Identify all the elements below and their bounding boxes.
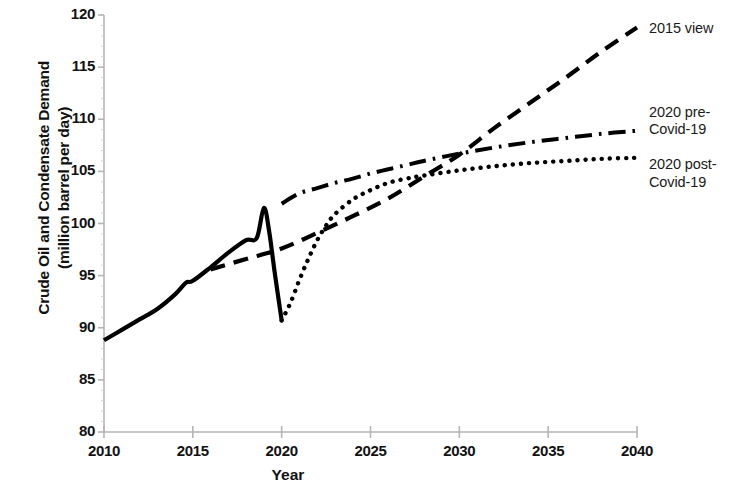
y-tick-label: 115: [49, 57, 95, 74]
series-label-2020-post-covid: 2020 post- Covid-19: [649, 156, 717, 191]
x-tick-label: 2015: [158, 442, 228, 459]
axis-group: [98, 15, 637, 438]
series-label-2015-view: 2015 view: [649, 20, 713, 38]
series-line: [211, 28, 637, 270]
y-tick-label: 120: [49, 5, 95, 22]
chart-figure: Crude Oil and Condensate Demand (million…: [0, 0, 736, 494]
y-tick-label: 85: [49, 370, 95, 387]
x-tick-label: 2010: [69, 442, 139, 459]
y-tick-label: 90: [49, 318, 95, 335]
series-line: [282, 131, 637, 204]
y-tick-label: 80: [49, 422, 95, 439]
line-chart-canvas: [0, 0, 736, 494]
series-label-2020-pre-covid: 2020 pre- Covid-19: [649, 104, 710, 139]
series-group: [104, 28, 637, 341]
series-line: [104, 208, 282, 340]
x-axis-title-text: Year: [272, 466, 305, 483]
y-tick-label: 110: [49, 109, 95, 126]
y-tick-label: 100: [49, 214, 95, 231]
x-axis-title: Year: [0, 466, 736, 484]
x-tick-label: 2020: [247, 442, 317, 459]
x-tick-label: 2025: [336, 442, 406, 459]
x-tick-label: 2030: [424, 442, 494, 459]
y-tick-label: 95: [49, 266, 95, 283]
x-tick-label: 2040: [602, 442, 672, 459]
y-tick-label: 105: [49, 161, 95, 178]
x-tick-label: 2035: [513, 442, 583, 459]
